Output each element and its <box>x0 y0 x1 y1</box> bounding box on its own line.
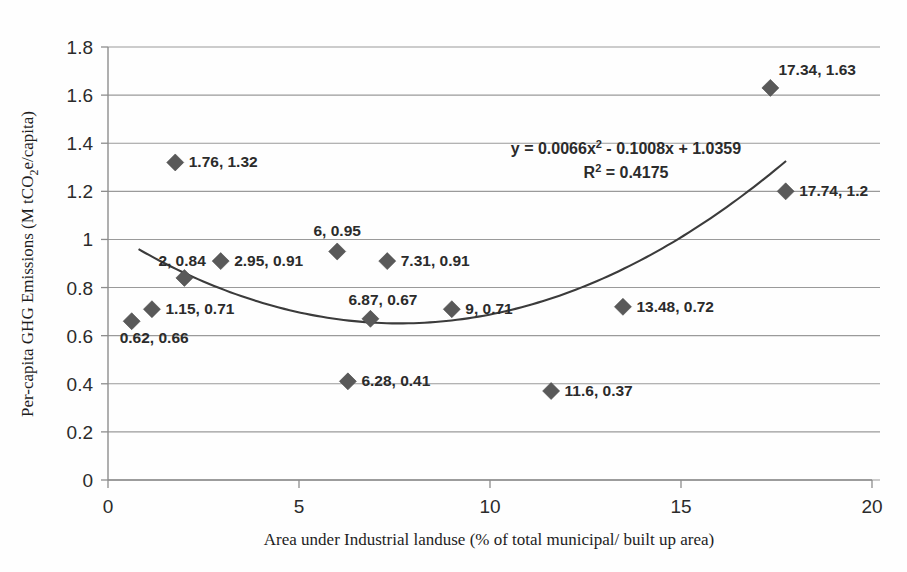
x-tick-labels: 05101520 <box>103 496 883 517</box>
r-squared-label: R <box>584 164 596 181</box>
svg-text:y = 0.0066x2 - 0.1008x + 1.035: y = 0.0066x2 - 0.1008x + 1.0359 <box>511 138 741 157</box>
y-tick-label: 0 <box>82 470 93 491</box>
data-point-label: 13.48, 0.72 <box>636 298 714 315</box>
y-axis <box>101 47 108 480</box>
y-axis-title-after: e/capita) <box>18 111 37 170</box>
x-axis-title-text: Area under Industrial landuse (% of tota… <box>264 530 714 549</box>
equation-main: y = 0.0066x <box>511 140 596 157</box>
data-point-marker <box>339 373 356 390</box>
data-point-label: 1.15, 0.71 <box>165 300 234 317</box>
data-point-marker <box>777 183 794 200</box>
data-point-marker <box>762 79 779 96</box>
x-tick-label: 10 <box>479 496 500 517</box>
y-axis-title-before: Per-capita GHG Emissions (M tCO <box>18 176 37 417</box>
data-point-label: 9, 0.71 <box>465 300 513 317</box>
data-point-label: 11.6, 0.37 <box>565 382 633 399</box>
data-point-marker <box>143 301 160 318</box>
data-point-marker <box>212 253 229 270</box>
y-tick-label: 0.4 <box>67 374 94 395</box>
trendline-equation-annotation: y = 0.0066x2 - 0.1008x + 1.0359 R2 = 0.4… <box>511 138 741 181</box>
data-point-marker <box>362 310 379 327</box>
equation-rest: - 0.1008x + 1.0359 <box>602 140 741 157</box>
data-point-label: 6.28, 0.41 <box>361 372 430 389</box>
y-tick-label: 0.2 <box>67 422 93 443</box>
data-point-label: 7.31, 0.91 <box>401 252 470 269</box>
data-point-marker <box>543 382 560 399</box>
data-point-marker <box>329 243 346 260</box>
data-point-marker <box>176 269 193 286</box>
data-point-label: 6, 0.95 <box>313 222 361 239</box>
x-axis <box>108 480 872 488</box>
y-tick-label: 1.8 <box>67 37 93 58</box>
data-point-marker <box>123 313 140 330</box>
r-squared-value: = 0.4175 <box>601 164 668 181</box>
x-tick-label: 5 <box>294 496 305 517</box>
data-point-label: 17.74, 1.2 <box>799 182 868 199</box>
y-tick-label: 0.8 <box>67 278 93 299</box>
data-point-marker <box>379 253 396 270</box>
data-point-label: 2, 0.84 <box>158 252 206 269</box>
x-tick-label: 20 <box>861 496 882 517</box>
x-tick-label: 15 <box>670 496 691 517</box>
data-point-label: 1.76, 1.32 <box>189 153 258 170</box>
data-point-labels: 0.62, 0.661.15, 0.711.76, 1.322, 0.842.9… <box>120 61 868 399</box>
data-point-label: 6.87, 0.67 <box>348 291 417 308</box>
data-point-label: 17.34, 1.63 <box>778 61 856 78</box>
y-tick-label: 1.4 <box>67 133 94 154</box>
y-axis-title: Per-capita GHG Emissions (M tCO2e/capita… <box>18 111 41 417</box>
y-tick-label: 1 <box>82 229 93 250</box>
x-axis-title: Area under Industrial landuse (% of tota… <box>264 530 714 549</box>
svg-text:R2 = 0.4175: R2 = 0.4175 <box>584 162 669 181</box>
y-tick-label: 1.2 <box>67 181 93 202</box>
data-point-label: 0.62, 0.66 <box>120 329 189 346</box>
data-point-marker <box>167 154 184 171</box>
y-tick-label: 1.6 <box>67 85 93 106</box>
data-point-marker <box>443 301 460 318</box>
data-point-marker <box>614 298 631 315</box>
chart-canvas: 00.20.40.60.811.21.41.61.8 05101520 0.62… <box>0 0 907 572</box>
y-tick-label: 0.6 <box>67 326 93 347</box>
svg-text:Per-capita GHG Emissions (M tC: Per-capita GHG Emissions (M tCO2e/capita… <box>18 111 41 417</box>
scatter-chart: 00.20.40.60.811.21.41.61.8 05101520 0.62… <box>0 0 907 572</box>
y-tick-labels: 00.20.40.60.811.21.41.61.8 <box>67 37 94 491</box>
x-tick-label: 0 <box>103 496 114 517</box>
data-point-label: 2.95, 0.91 <box>234 252 303 269</box>
